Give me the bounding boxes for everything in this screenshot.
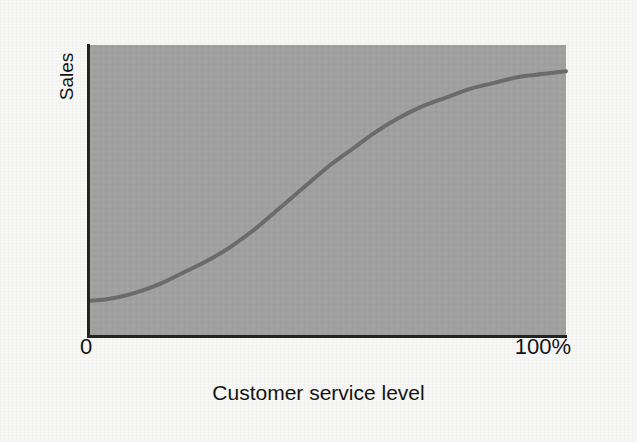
x-axis-tick-min: 0: [80, 336, 92, 358]
y-axis-title-text: Sales: [58, 51, 77, 101]
x-axis-title: Customer service level: [0, 382, 637, 403]
y-axis-title: Sales: [0, 44, 86, 114]
plot-area-texture: [89, 45, 566, 336]
figure-container: Sales 0 100% Customer service level: [0, 0, 637, 442]
chart-canvas: [0, 0, 637, 442]
x-axis-tick-max: 100%: [495, 336, 571, 358]
